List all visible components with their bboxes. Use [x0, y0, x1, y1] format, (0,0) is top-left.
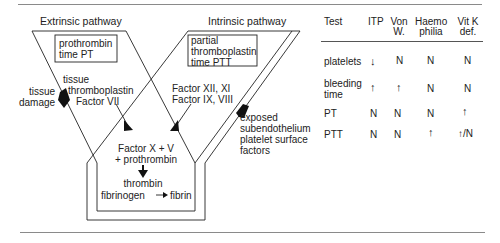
exposed-surface-label: exposed subendothelium platelet surface … [240, 112, 311, 156]
row-bleeding-time-vitk: N [464, 83, 471, 94]
row-platelets-vitk: N [464, 55, 471, 66]
row-pt-itp: N [370, 108, 377, 119]
row-bleeding-time-von: ↑ [396, 82, 402, 93]
fibrin-label: fibrin [170, 190, 192, 201]
row-pt-haemo: N [427, 108, 434, 119]
tt-line-3: Factor VII [62, 96, 134, 107]
header-test-line-1: Test [324, 17, 342, 27]
row-ptt-itp: N [370, 129, 377, 140]
fibrinogen-label: fibrinogen [101, 190, 145, 201]
tt-line-2: thromboplastin [62, 85, 134, 96]
down-arrow-icon [138, 170, 148, 178]
row-bleeding-time-haemo: N [427, 83, 434, 94]
exposed-line-4: factors [240, 145, 311, 156]
ptt-line-3: time PTT [191, 57, 257, 68]
tt-line-1: tissue [62, 74, 134, 85]
header-itp-line-1: ITP [368, 17, 384, 27]
exposed-line-3: platelet surface [240, 134, 311, 145]
header-vitk-line-2: def. [454, 27, 482, 37]
ptt-box-label: partial thromboplastin time PTT [191, 35, 257, 68]
intrinsic-pathway-title: Intrinsic pathway [208, 16, 286, 27]
thrombin-label: thrombin [116, 178, 170, 189]
tissue-damage-label: tissue damage [19, 86, 55, 108]
extrinsic-arrow-head-icon [124, 120, 133, 131]
common-pathway-label: Factor X + V + prothrombin [106, 143, 186, 165]
row-pt-von: N [394, 108, 401, 119]
row-ptt-vitk: ↑/N [458, 128, 473, 139]
row-platelets-test: platelets [324, 56, 361, 67]
header-divider [321, 41, 483, 42]
tissue-thromboplastin-label: tissue thromboplastin Factor VII [62, 74, 134, 107]
intrinsic-factors-label: Factor XII, XI Factor IX, VIII [172, 83, 233, 105]
pt-line-1: prothrombin [59, 38, 112, 49]
pt-line-2: time PT [59, 49, 112, 60]
row-bleeding-line-2: time [324, 89, 362, 100]
tissue-damage-line-2: damage [19, 97, 55, 108]
row-bleeding-time-test: bleeding time [324, 78, 362, 100]
exposed-line-1: exposed [240, 112, 311, 123]
ptt-line-1: partial [191, 35, 257, 46]
extrinsic-pathway-title: Extrinsic pathway [40, 16, 122, 27]
header-von-w: Von W. [388, 17, 410, 37]
row-platelets-itp: ↓ [370, 56, 376, 67]
row-ptt-von: N [394, 129, 401, 140]
ptt-line-2: thromboplastin [191, 46, 257, 57]
row-ptt-haemo: ↑ [428, 127, 434, 138]
row-platelets-von: N [396, 55, 403, 66]
row-platelets-haemo: N [427, 55, 434, 66]
row-pt-test: PT [324, 108, 337, 119]
header-vit-k-def: Vit K def. [454, 17, 482, 37]
row-bleeding-time-itp: ↑ [370, 82, 376, 93]
row-ptt-test: PTT [324, 129, 343, 140]
header-von-line-2: W. [388, 27, 410, 37]
row-pt-vitk: ↑ [462, 106, 468, 117]
header-itp: ITP [368, 17, 384, 27]
pt-box-label: prothrombin time PT [59, 38, 112, 60]
right-arrow-icon [163, 192, 168, 198]
row-bleeding-line-1: bleeding [324, 78, 362, 89]
intrinsic-factors-line-2: Factor IX, VIII [172, 94, 233, 105]
common-line-2: + prothrombin [106, 154, 186, 165]
exposed-line-2: subendothelium [240, 123, 311, 134]
intrinsic-arrow-head-icon [170, 120, 179, 131]
header-haemo-line-2: philia [415, 27, 447, 37]
common-line-1: Factor X + V [106, 143, 186, 154]
tissue-damage-line-1: tissue [19, 86, 55, 97]
header-haemophilia: Haemo philia [415, 17, 447, 37]
intrinsic-factors-line-1: Factor XII, XI [172, 83, 233, 94]
header-test: Test [324, 17, 342, 27]
